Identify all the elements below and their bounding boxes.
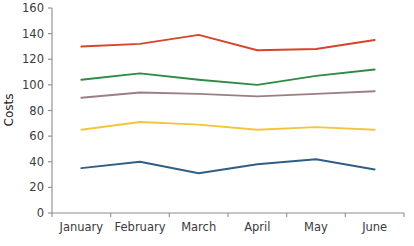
y-tick-label: 60 <box>29 129 44 143</box>
y-tick-label: 160 <box>22 1 44 15</box>
x-tick-label: April <box>244 220 270 234</box>
x-tick-labels: JanuaryFebruaryMarchAprilMayJune <box>59 220 388 234</box>
x-axis-group: JanuaryFebruaryMarchAprilMayJune <box>52 213 404 234</box>
y-tick-labels: 020406080100120140160 <box>22 1 44 220</box>
y-axis-group: 020406080100120140160 <box>22 1 52 220</box>
line-chart: 020406080100120140160 JanuaryFebruaryMar… <box>0 0 414 246</box>
series-line-series-yellow <box>81 122 374 130</box>
x-tick-label: May <box>304 220 328 234</box>
y-tick-label: 120 <box>22 52 44 66</box>
y-tick-label: 100 <box>22 78 44 92</box>
y-axis-title: Costs <box>2 94 16 127</box>
x-tick-label: March <box>181 220 216 234</box>
y-tick-label: 20 <box>29 180 44 194</box>
y-tick-label: 0 <box>37 206 44 220</box>
chart-canvas: 020406080100120140160 JanuaryFebruaryMar… <box>0 0 414 246</box>
x-tick-label: January <box>59 220 104 234</box>
series-lines <box>81 35 374 173</box>
series-line-series-blue <box>81 159 374 173</box>
y-tick-label: 40 <box>29 155 44 169</box>
series-line-series-green <box>81 70 374 85</box>
x-tick-marks <box>52 213 404 217</box>
series-line-series-mauve <box>81 91 374 97</box>
y-tick-label: 80 <box>29 104 44 118</box>
x-tick-label: February <box>115 220 166 234</box>
x-tick-label: June <box>361 220 387 234</box>
y-tick-marks <box>48 8 52 213</box>
y-tick-label: 140 <box>22 27 44 41</box>
series-line-series-red <box>81 35 374 50</box>
